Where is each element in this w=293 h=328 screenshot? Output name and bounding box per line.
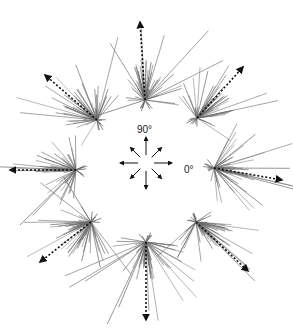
trajectory-line	[177, 222, 196, 258]
trajectory-line	[211, 168, 214, 181]
compass-arrow-135deg-icon	[130, 147, 140, 157]
burst-315deg	[158, 212, 259, 281]
trajectory-line	[196, 216, 211, 223]
compass-arrow-45deg-icon	[152, 147, 162, 157]
burst-135deg	[16, 37, 118, 145]
burst-90deg	[83, 22, 223, 120]
compass-arrow-225deg-icon	[130, 169, 140, 179]
trajectory-line	[41, 183, 92, 222]
trajectory-line	[146, 242, 195, 270]
burst-45deg	[179, 65, 278, 140]
label-0-degrees: 0°	[184, 164, 194, 175]
trajectory-line	[20, 170, 76, 225]
radial-trajectory-figure	[0, 0, 293, 328]
trajectory-line	[110, 43, 145, 100]
compass-arrow-315deg-icon	[152, 169, 162, 179]
trajectory-line	[61, 210, 91, 222]
trajectory-line	[196, 212, 211, 222]
label-90-degrees: 90°	[137, 124, 152, 135]
trajectory-line	[91, 222, 131, 274]
trajectory-line	[196, 222, 252, 254]
burst-0deg	[203, 124, 293, 211]
trajectory-line	[145, 35, 164, 100]
trajectory-line	[145, 100, 175, 104]
burst-225deg	[24, 177, 131, 275]
trajectory-line	[214, 168, 249, 210]
trajectory-line	[91, 222, 100, 268]
trajectory-line	[197, 118, 231, 141]
compass-rose	[120, 137, 172, 189]
trajectory-line	[197, 118, 215, 126]
trajectory-line	[179, 97, 197, 118]
burst-180deg	[0, 135, 87, 225]
trajectory-line	[145, 74, 174, 100]
trajectory-line	[76, 170, 82, 174]
trajectory-line	[75, 135, 76, 170]
